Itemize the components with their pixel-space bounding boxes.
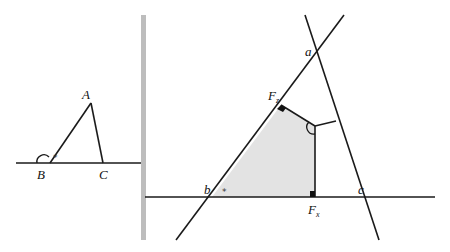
label-c: c	[358, 182, 364, 197]
label-a: a	[305, 44, 312, 59]
side-ac	[91, 103, 103, 163]
vertical-divider	[141, 15, 146, 240]
label-A: A	[81, 87, 90, 102]
geometry-diagram: * A B C * a b c Fz Fx	[0, 0, 450, 252]
shaded-region	[212, 105, 315, 197]
line-ac	[305, 15, 379, 240]
angle-mark-b-right: *	[222, 187, 227, 197]
label-C: C	[99, 167, 108, 182]
label-Fx: Fx	[307, 202, 320, 219]
label-b: b	[204, 182, 211, 197]
label-Fz: Fz	[267, 88, 280, 105]
left-triangle-figure: * A B C	[16, 87, 141, 182]
perpendicular-to-ac	[315, 121, 336, 126]
label-Fx-sub: x	[315, 210, 320, 219]
right-angle-marker-fx-icon	[310, 191, 315, 197]
right-triangle-figure: * a b c Fz Fx	[145, 15, 435, 240]
label-B: B	[37, 167, 45, 182]
line-ab	[176, 15, 344, 240]
exterior-angle-arc-icon	[37, 155, 49, 163]
angle-mark-b: *	[53, 153, 58, 163]
